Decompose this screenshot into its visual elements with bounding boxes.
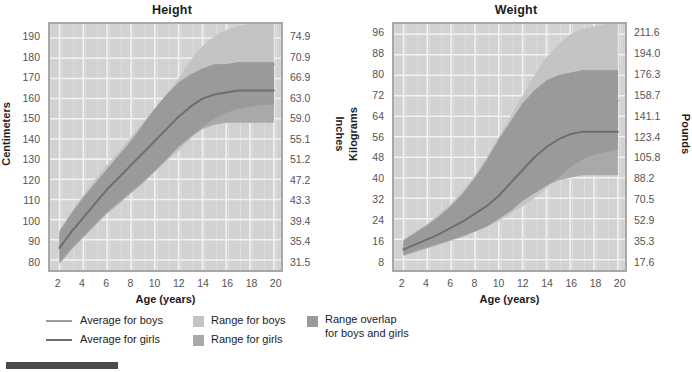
y-tick-right: 43.3 (290, 195, 310, 205)
legend-column: Range overlapfor boys and girls (307, 313, 409, 332)
y-tick-left: 100 (22, 216, 40, 226)
x-tick: 8 (471, 278, 477, 289)
y-tick-left: 32 (372, 194, 384, 204)
y-tick-right: 176.3 (634, 69, 660, 79)
y-axis-title-left-height: Centimeters (0, 94, 12, 174)
x-tick: 14 (541, 278, 553, 289)
x-tick: 4 (79, 278, 85, 289)
y-tick-left: 170 (22, 72, 40, 82)
legend-item-label: Range for boys (211, 313, 286, 327)
y-tick-left: 24 (372, 215, 384, 225)
y-tick-left: 80 (372, 69, 384, 79)
y-tick-left: 90 (28, 236, 40, 246)
y-tick-right: 141.1 (634, 111, 660, 121)
y-tick-left: 56 (372, 132, 384, 142)
y-tick-right: 35.3 (634, 236, 654, 246)
x-tick: 8 (127, 278, 133, 289)
legend-box-swatch (307, 316, 318, 327)
y-tick-left: 72 (372, 90, 384, 100)
x-tick: 12 (173, 278, 185, 289)
y-tick-right: 35.4 (290, 236, 310, 246)
x-tick: 18 (246, 278, 258, 289)
chart-title-height: Height (0, 3, 344, 17)
y-axis-title-right-weight: Pounds (680, 94, 692, 174)
y-tick-left: 80 (28, 257, 40, 267)
x-axis-ticks-weight: 2468101214161820 (392, 278, 627, 292)
legend-item: Average for girls (46, 332, 163, 349)
y-tick-left: 96 (372, 27, 384, 37)
legend-item: Range overlapfor boys and girls (307, 313, 409, 330)
x-tick: 16 (565, 278, 577, 289)
x-tick: 10 (493, 278, 505, 289)
x-tick: 20 (614, 278, 626, 289)
chart-panel-height: Height 190180170160150140130120110100908… (0, 0, 344, 310)
y-tick-left: 180 (22, 52, 40, 62)
legend-item: Range for girls (193, 332, 286, 349)
y-tick-left: 190 (22, 31, 40, 41)
y-tick-right: 211.6 (634, 27, 660, 37)
y-tick-right: 52.9 (634, 215, 654, 225)
bottom-progress-bar (6, 362, 118, 369)
legend-item: Range for boys (193, 313, 286, 330)
x-tick: 10 (149, 278, 161, 289)
y-tick-left: 160 (22, 93, 40, 103)
x-tick: 12 (517, 278, 529, 289)
plot-area-weight (392, 22, 627, 272)
x-tick: 6 (103, 278, 109, 289)
y-tick-right: 63.0 (290, 93, 310, 103)
y-tick-left: 140 (22, 134, 40, 144)
y-tick-right: 70.5 (634, 194, 654, 204)
y-tick-left: 150 (22, 113, 40, 123)
y-tick-right: 39.4 (290, 216, 310, 226)
y-axis-title-left-weight: Kilograms (347, 94, 359, 174)
y-tick-left: 130 (22, 154, 40, 164)
y-tick-right: 55.1 (290, 134, 310, 144)
legend-box-swatch (193, 335, 204, 346)
y-tick-left: 110 (23, 195, 40, 205)
chart-title-weight: Weight (344, 3, 688, 17)
x-axis-title-weight: Age (years) (392, 293, 627, 305)
y-tick-left: 40 (372, 173, 384, 183)
chart-panel-weight: Weight 96888072645648403224168 211.6194.… (344, 0, 688, 310)
y-tick-left: 8 (378, 257, 384, 267)
y-tick-right: 74.9 (290, 31, 310, 41)
y-tick-left: 88 (372, 48, 384, 58)
y-tick-right: 194.0 (634, 48, 660, 58)
y-tick-right: 158.7 (634, 90, 660, 100)
y-tick-left: 120 (22, 175, 40, 185)
y-axis-ticks-right-weight: 211.6194.0176.3158.7141.1123.4105.888.27… (631, 22, 681, 272)
x-tick: 16 (221, 278, 233, 289)
plot-area-height (48, 22, 283, 272)
x-axis-ticks-height: 2468101214161820 (48, 278, 283, 292)
legend-line-swatch (46, 339, 72, 341)
y-tick-left: 64 (372, 111, 384, 121)
legend-item-label: Range for girls (211, 332, 283, 346)
x-tick: 18 (590, 278, 602, 289)
y-tick-left: 16 (372, 236, 384, 246)
y-tick-right: 105.8 (634, 152, 660, 162)
legend-column: Average for boysAverage for girls (46, 313, 163, 351)
y-axis-ticks-right-height: 74.970.966.963.059.055.151.247.243.339.4… (287, 22, 337, 272)
y-tick-right: 51.2 (290, 154, 310, 164)
legend-item-label: Range overlapfor boys and girls (325, 313, 409, 340)
y-tick-right: 88.2 (634, 173, 654, 183)
legend-box-swatch (193, 316, 204, 327)
data-series-weight (394, 24, 625, 270)
legend-item-label: Average for girls (80, 332, 160, 346)
y-tick-right: 66.9 (290, 72, 310, 82)
x-tick: 6 (447, 278, 453, 289)
y-tick-right: 17.6 (634, 257, 654, 267)
y-tick-right: 47.2 (290, 175, 310, 185)
legend-item-label: Average for boys (80, 313, 163, 327)
legend-column: Range for boysRange for girls (193, 313, 286, 351)
x-tick: 2 (399, 278, 405, 289)
y-tick-right: 59.0 (290, 113, 310, 123)
x-tick: 14 (197, 278, 209, 289)
y-tick-right: 123.4 (634, 132, 660, 142)
y-tick-right: 31.5 (290, 257, 310, 267)
x-tick: 4 (423, 278, 429, 289)
y-tick-left: 48 (372, 152, 384, 162)
data-series-height (50, 24, 281, 270)
x-axis-title-height: Age (years) (48, 293, 283, 305)
